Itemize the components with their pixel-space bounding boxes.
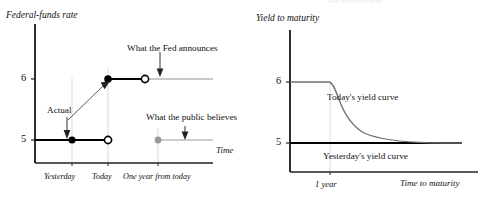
figure-top-cut-title: and the yield curve bbox=[300, 0, 410, 4]
left-xtick-label-today: Today bbox=[92, 173, 112, 181]
marker-actual-today-open bbox=[104, 136, 111, 143]
marker-fed-open bbox=[141, 75, 148, 82]
figure-container: and the yield curve Federal-funds rate 6… bbox=[0, 0, 494, 201]
left-ytick-label-6: 6 bbox=[21, 73, 26, 84]
annotation-todays-yield-curve: Today's yield curve bbox=[327, 93, 398, 102]
annotation-public-believes: What the public believes bbox=[146, 113, 237, 122]
right-ytick-label-6: 6 bbox=[276, 76, 281, 87]
arrow-fed-announces-head bbox=[157, 69, 164, 78]
left-xtick-label-one-year-from-today: One year from today bbox=[123, 173, 191, 181]
marker-actual-yesterday-filled bbox=[68, 136, 75, 143]
arrow-actual-diagonal-shaft bbox=[68, 86, 103, 120]
right-chart-y-axis-label: Yield to maturity bbox=[256, 14, 319, 24]
arrow-actual-diagonal-head bbox=[101, 81, 110, 89]
right-ytick-label-5: 5 bbox=[276, 137, 281, 148]
left-xtick-label-yesterday: Yesterday bbox=[44, 173, 75, 181]
right-chart-x-axis-label: Time to maturity bbox=[400, 179, 460, 188]
charts-svg bbox=[0, 0, 494, 201]
annotation-yesterdays-yield-curve: Yesterday's yield curve bbox=[323, 152, 408, 161]
left-chart-x-axis-label: Time bbox=[216, 146, 234, 155]
marker-public-filled-gray bbox=[155, 137, 162, 144]
annotation-actual: Actual bbox=[47, 106, 72, 115]
left-chart-y-axis-label: Federal-funds rate bbox=[6, 11, 78, 21]
annotation-fed-announces: What the Fed announces bbox=[127, 44, 218, 53]
left-ytick-label-5: 5 bbox=[21, 134, 26, 145]
arrow-public-believes-head bbox=[182, 132, 189, 141]
right-xtick-label-one-year: 1 year bbox=[315, 180, 337, 189]
